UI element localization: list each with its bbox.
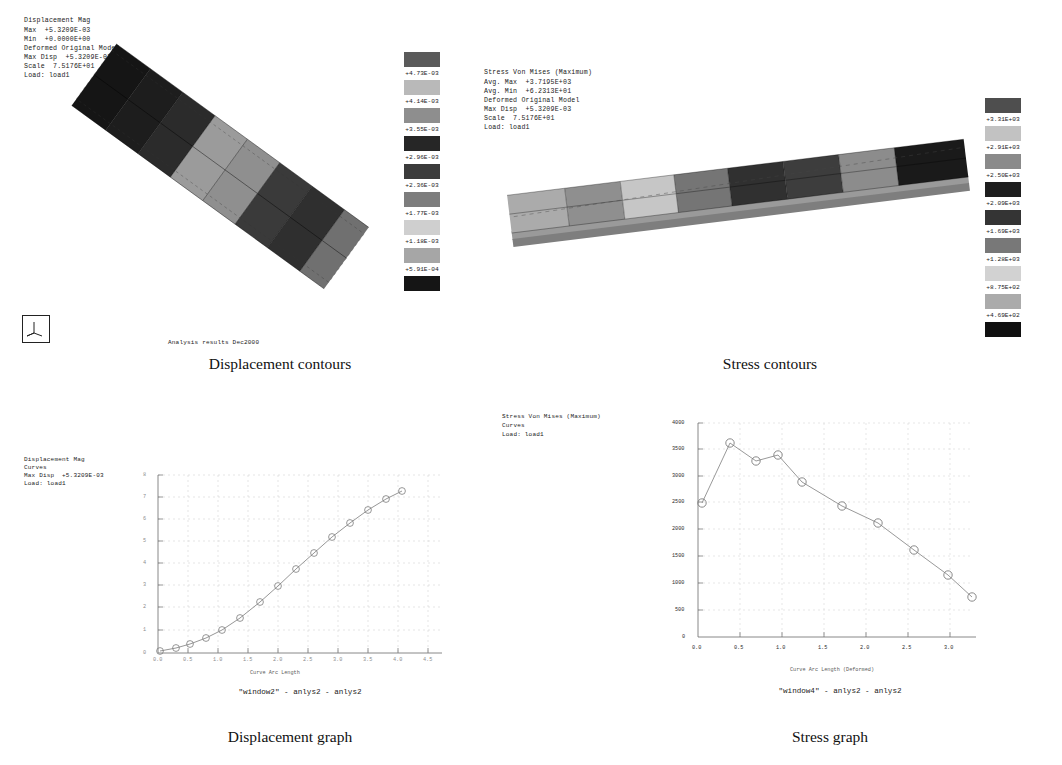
stress-window-caption: "window4" - anlys2 - anlys2	[700, 687, 980, 695]
stress-chart	[690, 417, 980, 657]
legend-label: +3.31E+03	[986, 113, 1019, 126]
disp-xtick-5: 2.5	[303, 657, 312, 663]
displacement-contour-model	[55, 20, 385, 310]
disp-xtick-8: 4.0	[393, 657, 402, 663]
legend-swatch	[404, 276, 440, 291]
displacement-window-caption: "window2" - anlys2 - anlys2	[170, 688, 430, 696]
stress-colour-legend: +3.31E+03 +2.91E+03 +2.50E+03 +2.09E+03 …	[985, 98, 1021, 337]
stress-annotation-line-0: Avg. Max +3.7195E+03	[484, 78, 571, 87]
disp-ytick-3: 3	[143, 582, 146, 588]
stress-annotation-title: Stress Von Mises (Maximum)	[484, 68, 592, 77]
disp-xtick-7: 3.5	[363, 657, 372, 663]
stress-annotation-line-5: Load: load1	[484, 123, 530, 132]
legend-swatch	[404, 164, 440, 179]
legend-swatch	[404, 192, 440, 207]
stress-ytick-8: 4000	[672, 420, 684, 426]
stress-ytick-0: 0	[682, 634, 685, 640]
stress-graph-annotation-line-1: Load: load1	[502, 431, 544, 439]
stress-xtick-4: 2.0	[860, 645, 869, 651]
stress-annotation-line-1: Avg. Min +6.2313E+01	[484, 87, 571, 96]
disp-xtick-3: 1.5	[243, 657, 252, 663]
disp-ytick-0: 0	[143, 650, 146, 656]
stress-xtick-1: 0.5	[734, 645, 743, 651]
stress-ytick-2: 1000	[672, 580, 684, 586]
displacement-contours-caption: Displacement contours	[130, 355, 430, 373]
stress-ytick-1: 500	[675, 607, 684, 613]
stress-annotation-line-2: Deformed Original Model	[484, 96, 580, 105]
disp-ytick-7: 7	[143, 494, 146, 500]
fea-results-figure: Displacement Mag Max +5.3209E-03 Min +0.…	[0, 0, 1062, 765]
disp-xtick-0: 0.0	[153, 657, 162, 663]
stress-graph-annotation-title: Stress Von Mises (Maximum)	[502, 413, 601, 421]
axis-triad-icon	[22, 315, 50, 343]
stress-xtick-6: 3.0	[944, 645, 953, 651]
stress-ytick-5: 2500	[672, 499, 684, 505]
legend-swatch	[985, 126, 1021, 141]
stress-graph-caption: Stress graph	[680, 728, 980, 746]
legend-swatch	[985, 322, 1021, 337]
legend-label: +8.75E+02	[986, 281, 1019, 294]
legend-label: +4.73E-03	[405, 67, 438, 80]
legend-label: +1.28E+03	[986, 253, 1019, 266]
legend-label: +1.69E+03	[986, 225, 1019, 238]
stress-graph-panel: Stress Von Mises (Maximum) Curves Load: …	[490, 395, 1062, 725]
legend-swatch	[985, 154, 1021, 169]
displacement-chart	[150, 465, 450, 680]
legend-swatch	[404, 108, 440, 123]
legend-label: +2.96E-03	[405, 151, 438, 164]
displacement-colour-legend: +4.73E-03 +4.14E-03 +3.55E-03 +2.96E-03 …	[404, 52, 440, 291]
disp-xtick-1: 0.5	[183, 657, 192, 663]
disp-xtick-2: 1.0	[213, 657, 222, 663]
displacement-graph-caption: Displacement graph	[140, 728, 440, 746]
disp-xtick-9: 4.5	[423, 657, 432, 663]
stress-xtick-5: 2.5	[902, 645, 911, 651]
stress-annotation-line-3: Max Disp +5.3209E-03	[484, 105, 571, 114]
disp-ytick-6: 6	[143, 516, 146, 522]
stress-ytick-4: 2000	[672, 526, 684, 532]
stress-xaxis-title: Curve Arc Length (Deformed)	[790, 667, 874, 673]
legend-label: +4.14E-03	[405, 95, 438, 108]
stress-contour-model	[500, 145, 980, 265]
stress-ytick-7: 3500	[672, 446, 684, 452]
disp-ytick-4: 4	[143, 560, 146, 566]
legend-label: +2.09E+03	[986, 197, 1019, 210]
stress-annotation-line-4: Scale 7.5176E+01	[484, 114, 555, 123]
displacement-contour-panel: Displacement Mag Max +5.3209E-03 Min +0.…	[0, 0, 420, 380]
legend-swatch	[404, 136, 440, 151]
legend-swatch	[985, 210, 1021, 225]
legend-label: +2.91E+03	[986, 141, 1019, 154]
legend-swatch	[404, 52, 440, 67]
legend-label: +3.55E-03	[405, 123, 438, 136]
legend-swatch	[404, 248, 440, 263]
legend-swatch	[985, 238, 1021, 253]
legend-label: +2.50E+03	[986, 169, 1019, 182]
disp-xtick-6: 3.0	[333, 657, 342, 663]
legend-label: +2.36E-03	[405, 179, 438, 192]
stress-contour-panel: Stress Von Mises (Maximum) Avg. Max +3.7…	[470, 0, 990, 380]
legend-swatch	[404, 80, 440, 95]
disp-ytick-8: 8	[143, 472, 146, 478]
legend-label: +5.91E-04	[405, 263, 438, 276]
legend-swatch	[985, 266, 1021, 281]
stress-ytick-3: 1500	[672, 553, 684, 559]
legend-label: +1.77E-03	[405, 207, 438, 220]
legend-swatch	[985, 294, 1021, 309]
legend-label: +1.18E-03	[405, 235, 438, 248]
legend-label: +4.69E+02	[986, 309, 1019, 322]
displacement-xaxis-title: Curve Arc Length	[250, 670, 300, 676]
legend-swatch	[404, 220, 440, 235]
disp-ytick-2: 2	[143, 604, 146, 610]
stress-xtick-3: 1.5	[818, 645, 827, 651]
stress-ytick-6: 3000	[672, 473, 684, 479]
legend-swatch	[985, 182, 1021, 197]
displacement-graph-annotation-line-2: Load: load1	[24, 480, 66, 488]
disp-xtick-4: 2.0	[273, 657, 282, 663]
legend-swatch	[985, 98, 1021, 113]
stress-xtick-2: 1.0	[776, 645, 785, 651]
disp-ytick-5: 5	[143, 538, 146, 544]
analysis-results-note: Analysis results Dec2000	[168, 339, 259, 347]
stress-xtick-0: 0.0	[692, 645, 701, 651]
stress-graph-annotation-line-0: Curves	[502, 422, 525, 430]
disp-ytick-1: 1	[143, 627, 146, 633]
displacement-graph-panel: Displacement Mag Curves Max Disp +5.3209…	[0, 395, 500, 725]
